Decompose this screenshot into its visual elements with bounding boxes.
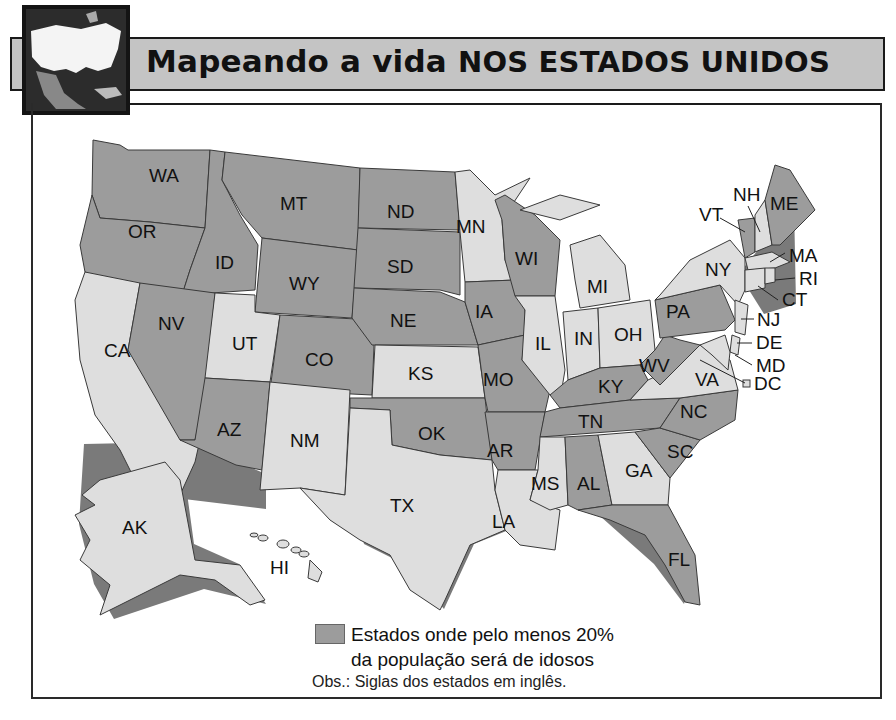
- label-NY: NY: [705, 259, 732, 280]
- label-HI: HI: [270, 557, 289, 578]
- label-LA: LA: [492, 511, 516, 532]
- label-AK: AK: [122, 517, 148, 538]
- label-DC: DC: [754, 373, 781, 394]
- legend-line-1: Estados onde pelo menos 20%: [351, 622, 671, 647]
- label-AZ: AZ: [217, 419, 242, 440]
- label-NM: NM: [290, 430, 320, 451]
- us-map: WA OR CA ID NV MT WY UT CO AZ NM ND SD N…: [0, 0, 896, 720]
- label-MO: MO: [483, 369, 514, 390]
- label-NC: NC: [680, 401, 707, 422]
- label-NE: NE: [390, 310, 416, 331]
- label-WY: WY: [289, 273, 320, 294]
- label-DE: DE: [756, 332, 782, 353]
- state-NJ[interactable]: [735, 300, 748, 335]
- legend-swatch-highlighted: [315, 624, 345, 644]
- label-VA: VA: [695, 369, 719, 390]
- label-GA: GA: [625, 460, 653, 481]
- label-MN: MN: [456, 216, 486, 237]
- label-CO: CO: [305, 349, 334, 370]
- legend-line-2: da população será de idosos: [351, 647, 671, 672]
- state-RI[interactable]: [765, 268, 775, 284]
- label-OH: OH: [614, 324, 643, 345]
- label-NH: NH: [733, 184, 760, 205]
- label-AL: AL: [577, 473, 600, 494]
- label-TN: TN: [578, 411, 603, 432]
- label-CA: CA: [104, 340, 131, 361]
- label-IL: IL: [535, 333, 551, 354]
- label-NJ: NJ: [757, 309, 780, 330]
- label-AR: AR: [487, 440, 513, 461]
- legend-text: Estados onde pelo menos 20% da população…: [351, 622, 671, 672]
- label-VT: VT: [699, 204, 724, 225]
- label-NV: NV: [158, 313, 185, 334]
- label-KS: KS: [408, 363, 433, 384]
- label-WV: WV: [639, 355, 670, 376]
- label-OR: OR: [128, 221, 157, 242]
- label-SC: SC: [667, 441, 693, 462]
- label-UT: UT: [232, 333, 258, 354]
- label-MI: MI: [587, 276, 608, 297]
- abbreviation-note: Obs.: Siglas dos estados em inglês.: [312, 673, 566, 691]
- label-RI: RI: [799, 268, 818, 289]
- label-KY: KY: [598, 376, 624, 397]
- label-ND: ND: [387, 201, 414, 222]
- label-MS: MS: [531, 473, 560, 494]
- label-FL: FL: [668, 549, 690, 570]
- label-ME: ME: [770, 193, 799, 214]
- label-PA: PA: [666, 301, 690, 322]
- label-WI: WI: [515, 248, 538, 269]
- label-WA: WA: [149, 165, 179, 186]
- label-IA: IA: [475, 301, 493, 322]
- label-MT: MT: [280, 193, 308, 214]
- state-DE[interactable]: [730, 335, 740, 355]
- label-CT: CT: [782, 289, 808, 310]
- label-TX: TX: [390, 495, 415, 516]
- label-SD: SD: [387, 256, 413, 277]
- label-ID: ID: [215, 252, 234, 273]
- label-IN: IN: [574, 328, 593, 349]
- label-MA: MA: [789, 245, 818, 266]
- state-DC[interactable]: [743, 380, 750, 387]
- label-OK: OK: [418, 423, 446, 444]
